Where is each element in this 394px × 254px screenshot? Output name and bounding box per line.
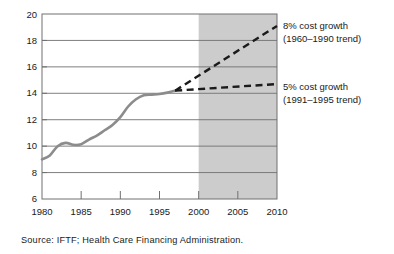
xtick-label-1990: 1990: [110, 206, 131, 217]
chart-figure: 6 8 10 12 14 16 18 20 1980 1985 1990 199…: [0, 0, 394, 254]
annotation-8-percent-line2: (1960–1990 trend): [283, 33, 361, 44]
ytick-label-8: 8: [32, 167, 37, 178]
annotation-5-percent-line1: 5% cost growth: [283, 81, 348, 92]
xtick-label-1985: 1985: [71, 206, 92, 217]
y-tick-marks: [42, 40, 47, 172]
ytick-label-12: 12: [26, 114, 37, 125]
xtick-label-1980: 1980: [31, 206, 52, 217]
series-line-historical: [42, 91, 175, 160]
xtick-label-2010: 2010: [266, 206, 287, 217]
annotation-5-percent-line2: (1991–1995 trend): [283, 94, 361, 105]
ytick-label-14: 14: [26, 87, 37, 98]
forecast-shaded-region: [199, 14, 277, 199]
ytick-label-18: 18: [26, 35, 37, 46]
xtick-label-1995: 1995: [149, 206, 170, 217]
ytick-label-16: 16: [26, 61, 37, 72]
annotation-8-percent-line1: 8% cost growth: [283, 20, 348, 31]
chart-canvas: 6 8 10 12 14 16 18 20 1980 1985 1990 199…: [0, 0, 394, 254]
ytick-label-20: 20: [26, 9, 37, 20]
xtick-label-2005: 2005: [227, 206, 248, 217]
ytick-label-10: 10: [26, 140, 37, 151]
xtick-label-2000: 2000: [188, 206, 209, 217]
ytick-label-6: 6: [32, 193, 37, 204]
source-note: Source: IFTF; Health Care Financing Admi…: [21, 235, 243, 245]
